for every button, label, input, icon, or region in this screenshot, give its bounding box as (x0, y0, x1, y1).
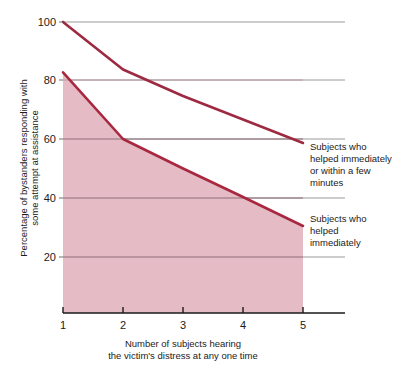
chart-figure: 100 80 60 40 20 1 2 3 4 5 Number of subj… (0, 0, 394, 368)
x-tick-label-2: 2 (120, 319, 126, 331)
y-tick-label-20: 20 (44, 251, 56, 263)
y-tick-label-80: 80 (44, 74, 56, 86)
annotation-upper-line1: Subjects who (310, 141, 367, 152)
annotation-lower-line3: immediately (310, 237, 361, 248)
x-axis-title-line2: the victim's distress at any one time (108, 350, 258, 361)
y-tick-label-60: 60 (44, 133, 56, 145)
annotation-lower-line2: helped (310, 225, 339, 236)
line-chart-svg: 100 80 60 40 20 1 2 3 4 5 Number of subj… (0, 0, 394, 368)
x-axis-title-line1: Number of subjects hearing (125, 338, 241, 349)
area-fill-helped-immediately (63, 72, 303, 313)
x-tick-label-4: 4 (240, 319, 246, 331)
y-axis-title-line1: Percentage of bystanders responding with (18, 79, 29, 256)
x-tick-label-5: 5 (300, 319, 306, 331)
x-tick-label-1: 1 (60, 319, 66, 331)
y-ticks (59, 22, 63, 257)
annotation-upper-line3: or within a few (310, 165, 371, 176)
y-axis-title-line2: some attempt at assistance (29, 110, 40, 226)
annotation-upper-line4: minutes (310, 177, 344, 188)
annotation-upper-line2: helped immediately (310, 153, 392, 164)
annotation-helped-immediately: Subjects who helped immediately (310, 213, 367, 248)
y-tick-label-100: 100 (38, 16, 56, 28)
annotation-lower-line1: Subjects who (310, 213, 367, 224)
y-tick-label-40: 40 (44, 192, 56, 204)
annotation-helped-immediately-or-within-minutes: Subjects who helped immediately or withi… (310, 141, 392, 188)
x-tick-label-3: 3 (180, 319, 186, 331)
